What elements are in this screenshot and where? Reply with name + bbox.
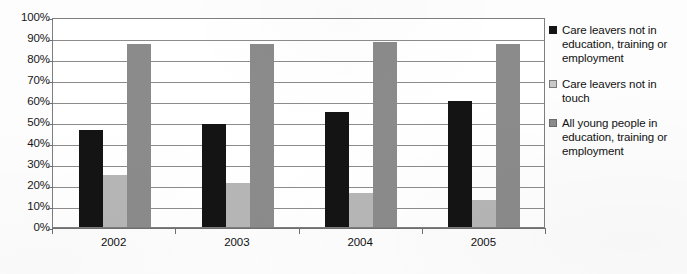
bar[interactable]	[226, 183, 250, 227]
bar[interactable]	[79, 130, 103, 227]
y-tick-label: 100%	[4, 12, 50, 24]
bar-group	[448, 19, 520, 227]
bar[interactable]	[448, 101, 472, 227]
black-square-icon	[549, 26, 557, 34]
medium-gray-square-icon	[549, 119, 557, 127]
bar[interactable]	[202, 124, 226, 227]
x-tick-label: 2004	[348, 236, 373, 249]
bar[interactable]	[496, 44, 520, 227]
bar-chart-figure: 0%10%20%30%40%50%60%70%80%90%100% 200220…	[0, 0, 687, 274]
y-tick-label: 0%	[4, 222, 50, 234]
x-tick-mark	[52, 228, 53, 234]
bar[interactable]	[250, 44, 274, 227]
legend-label: Care leavers not in touch	[562, 77, 683, 105]
chart-legend: Care leavers not in education, training …	[549, 23, 683, 170]
x-tick-mark	[175, 228, 176, 234]
y-tick-label: 60%	[4, 96, 50, 108]
bar[interactable]	[103, 175, 127, 228]
bar[interactable]	[127, 44, 151, 227]
legend-entry[interactable]: Care leavers not in touch	[549, 77, 683, 105]
bar-group	[202, 19, 274, 227]
x-tick-label: 2002	[101, 236, 126, 249]
y-axis: 0%10%20%30%40%50%60%70%80%90%100%	[4, 18, 50, 228]
y-tick-label: 70%	[4, 75, 50, 87]
legend-label: All young people in education, training …	[562, 116, 683, 159]
y-tick-label: 20%	[4, 180, 50, 192]
bars-layer	[53, 19, 544, 227]
legend-entry[interactable]: All young people in education, training …	[549, 116, 683, 159]
x-tick-label: 2003	[224, 236, 249, 249]
y-tick-label: 10%	[4, 201, 50, 213]
x-tick-mark	[299, 228, 300, 234]
y-tick-label: 50%	[4, 117, 50, 129]
y-tick-label: 30%	[4, 159, 50, 171]
x-tick-mark	[545, 228, 546, 234]
y-tick-label: 80%	[4, 54, 50, 66]
x-tick-label: 2005	[471, 236, 496, 249]
bar[interactable]	[349, 193, 373, 227]
y-tick-label: 90%	[4, 33, 50, 45]
legend-label: Care leavers not in education, training …	[562, 23, 683, 66]
light-gray-square-icon	[549, 80, 557, 88]
legend-entry[interactable]: Care leavers not in education, training …	[549, 23, 683, 66]
x-tick-mark	[422, 228, 423, 234]
y-tick-label: 40%	[4, 138, 50, 150]
plot-area	[52, 18, 545, 228]
bar[interactable]	[472, 200, 496, 227]
bar[interactable]	[373, 42, 397, 227]
bar-group	[79, 19, 151, 227]
bar-group	[325, 19, 397, 227]
bar[interactable]	[325, 112, 349, 228]
